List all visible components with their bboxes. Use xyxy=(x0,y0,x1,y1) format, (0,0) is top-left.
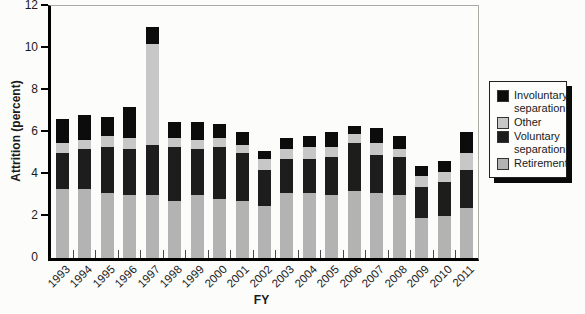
retirement-segment xyxy=(78,189,91,258)
x-tick-label: 2000 xyxy=(202,263,229,290)
x-axis-tick xyxy=(433,250,434,258)
retirement-segment xyxy=(101,193,114,258)
voluntary-separation-segment xyxy=(168,147,181,202)
y-tick-label: 8 xyxy=(2,83,38,95)
other-segment xyxy=(78,140,91,148)
voluntary-separation-segment xyxy=(280,159,293,193)
y-tick-label: 0 xyxy=(2,251,38,263)
involuntary-separation-segment xyxy=(460,132,473,153)
voluntary-separation-segment xyxy=(236,153,249,201)
y-tick-mark xyxy=(41,88,48,90)
involuntary-separation-segment xyxy=(146,27,159,44)
voluntary-separation-segment xyxy=(325,157,338,195)
bar-1998 xyxy=(168,122,181,258)
other-segment xyxy=(303,147,316,160)
voluntary-separation-segment xyxy=(258,170,271,206)
other-segment xyxy=(370,143,383,156)
bar-2007 xyxy=(370,128,383,258)
legend-item-other: Other xyxy=(497,116,561,129)
involuntary-separation-segment xyxy=(258,151,271,159)
voluntary-separation-segment xyxy=(370,155,383,193)
x-axis-tick xyxy=(95,250,96,258)
y-tick-mark xyxy=(41,214,48,216)
other-segment xyxy=(348,134,361,142)
bar-2009 xyxy=(415,166,428,258)
retirement-segment xyxy=(123,195,136,258)
other-segment xyxy=(258,159,271,170)
involuntary-separation-segment xyxy=(280,138,293,149)
legend-item-involuntary-separation: Involuntary separation xyxy=(497,89,561,115)
voluntary-separation-segment xyxy=(146,145,159,195)
x-tick-label: 1993 xyxy=(45,263,72,290)
bar-2000 xyxy=(213,124,226,258)
x-tick-label: 2003 xyxy=(270,263,297,290)
legend-label: Other xyxy=(514,116,542,129)
x-tick-label: 1994 xyxy=(68,263,95,290)
x-axis-tick xyxy=(365,250,366,258)
other-segment xyxy=(460,153,473,170)
y-tick-mark xyxy=(41,46,48,48)
y-tick-mark xyxy=(41,130,48,132)
legend-label: Involuntary separation xyxy=(514,89,568,115)
x-axis-tick xyxy=(455,250,456,258)
x-tick-label: 2004 xyxy=(292,263,319,290)
voluntary-separation-segment xyxy=(123,149,136,195)
retirement-segment xyxy=(460,208,473,258)
voluntary-separation-segment xyxy=(438,182,451,216)
involuntary-separation-segment xyxy=(303,136,316,147)
other-segment xyxy=(393,149,406,157)
retirement-segment xyxy=(146,195,159,258)
x-axis-tick xyxy=(410,250,411,258)
x-tick-label: 2008 xyxy=(382,263,409,290)
y-tick-label: 4 xyxy=(2,167,38,179)
retirement-segment xyxy=(213,199,226,258)
x-tick-label: 2009 xyxy=(405,263,432,290)
retirement-segment xyxy=(280,193,293,258)
x-tick-label: 1999 xyxy=(180,263,207,290)
legend-label: Retirement xyxy=(514,157,568,170)
x-tick-label: 2011 xyxy=(450,263,476,289)
other-segment xyxy=(101,136,114,147)
bar-1994 xyxy=(78,115,91,258)
bar-2011 xyxy=(460,132,473,258)
x-axis-tick xyxy=(298,250,299,258)
retirement-segment xyxy=(415,218,428,258)
x-axis-tick xyxy=(163,250,164,258)
involuntary-separation-segment xyxy=(123,107,136,139)
x-tick-label: 1995 xyxy=(90,263,117,290)
x-tick-label: 1996 xyxy=(113,263,140,290)
voluntary-separation-segment xyxy=(393,157,406,195)
involuntary-separation-segment xyxy=(213,124,226,139)
x-tick-label: 2006 xyxy=(337,263,364,290)
retirement-segment xyxy=(56,189,69,258)
involuntary-separation-segment xyxy=(325,132,338,147)
involuntary-separation-segment xyxy=(370,128,383,143)
retirement-segment xyxy=(325,195,338,258)
bar-2010 xyxy=(438,161,451,258)
voluntary-separation-segment xyxy=(101,147,114,193)
other-segment xyxy=(280,149,293,160)
other-segment xyxy=(191,140,204,148)
voluntary-separation-segment xyxy=(78,149,91,189)
involuntary-separation-segment xyxy=(236,132,249,145)
involuntary-separation-segment xyxy=(393,136,406,149)
bar-2008 xyxy=(393,136,406,258)
legend-item-voluntary-separation: Voluntary separation xyxy=(497,130,561,156)
attrition-stacked-bar-chart: Attrition (percent) 024681012 1993199419… xyxy=(0,0,585,314)
other-segment xyxy=(146,44,159,145)
retirement-segment xyxy=(191,195,204,258)
voluntary-separation-segment xyxy=(213,147,226,200)
voluntary-separation-segment xyxy=(303,159,316,193)
x-tick-label: 2007 xyxy=(360,263,387,290)
retirement-swatch-icon xyxy=(497,158,509,170)
involuntary-separation-segment xyxy=(438,161,451,172)
voluntary-separation-segment xyxy=(415,187,428,219)
involuntary-separation-segment xyxy=(191,122,204,141)
involuntary-separation-segment xyxy=(415,166,428,177)
x-axis-tick xyxy=(253,250,254,258)
involuntary-separation-segment xyxy=(56,119,69,142)
retirement-segment xyxy=(370,193,383,258)
x-tick-label: 1998 xyxy=(157,263,184,290)
x-tick-label: 2005 xyxy=(315,263,342,290)
other-segment xyxy=(415,176,428,187)
